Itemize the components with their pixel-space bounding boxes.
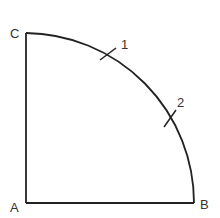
diagram-canvas: C A B 1 2: [0, 0, 220, 218]
point-label-a: A: [10, 200, 19, 215]
point-label-b: B: [200, 197, 209, 212]
tick-label-2: 2: [177, 95, 184, 110]
point-label-c: C: [10, 26, 19, 41]
sector-diagram: C A B 1 2: [0, 0, 220, 218]
tick-label-1: 1: [121, 37, 128, 52]
arc-cb: [26, 33, 194, 203]
